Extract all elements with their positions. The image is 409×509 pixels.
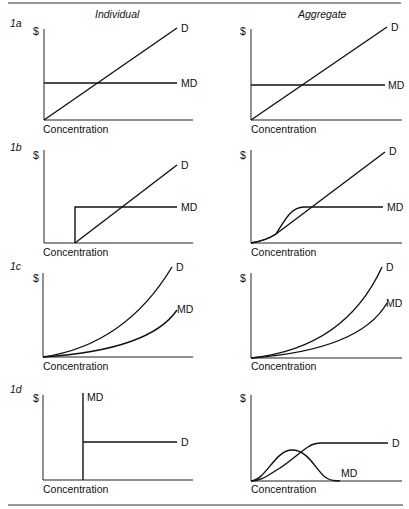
md-label: MD: [387, 201, 404, 213]
y-axis-label: $: [240, 149, 246, 161]
row-label-1b: 1b: [10, 141, 22, 153]
x-axis-label: Concentration: [43, 360, 109, 372]
d-curve: [43, 267, 172, 357]
md-curve: [251, 450, 340, 481]
header-aggregate: Aggregate: [297, 8, 347, 20]
x-axis-label: Concentration: [43, 123, 109, 135]
d-label: D: [391, 21, 399, 33]
panel-1b-individual: $ D MD Concentration: [33, 149, 198, 258]
y-axis-label: $: [33, 392, 39, 404]
md-label: MD: [388, 79, 405, 91]
md-label: MD: [87, 391, 104, 403]
row-label-1c: 1c: [10, 260, 22, 272]
d-curve: [251, 152, 385, 243]
md-curve: [43, 310, 177, 357]
md-curve: [251, 303, 387, 358]
axes: [43, 273, 193, 357]
panel-1c-individual: $ D MD Concentration: [33, 261, 194, 372]
y-axis-label: $: [33, 25, 39, 37]
axes: [44, 150, 193, 243]
md-label: MD: [341, 467, 358, 479]
y-axis-label: $: [240, 272, 246, 284]
row-label-1a: 1a: [10, 17, 22, 29]
x-axis-label: Concentration: [43, 483, 109, 495]
md-label: MD: [177, 303, 194, 315]
md-curve: [75, 207, 177, 243]
md-label: MD: [181, 201, 198, 213]
d-curve: [75, 165, 177, 243]
row-1b: 1b $ D MD Concentration $ D MD Concentra…: [10, 141, 404, 258]
x-axis-label: Concentration: [251, 246, 317, 258]
axes: [44, 29, 193, 120]
figure-1-diagrams: Individual Aggregate 1a $ D MD Concentra…: [0, 0, 409, 509]
axes: [251, 395, 402, 481]
panel-1d-aggregate: $ D MD Concentration: [240, 392, 402, 495]
y-axis-label: $: [240, 392, 246, 404]
axes: [43, 395, 193, 480]
d-curve: [251, 267, 382, 358]
x-axis-label: Concentration: [251, 123, 317, 135]
panel-1a-aggregate: $ D MD Concentration: [240, 21, 405, 135]
md-label: MD: [181, 77, 198, 89]
x-axis-label: Concentration: [251, 483, 317, 495]
md-label: MD: [386, 297, 403, 309]
d-label: D: [386, 261, 394, 273]
d-label: D: [181, 436, 189, 448]
row-1d: 1d $ MD D Concentration $ D MD Concentra…: [10, 383, 402, 495]
d-label: D: [392, 437, 400, 449]
row-1c: 1c $ D MD Concentration $ D MD Concentra…: [10, 260, 403, 372]
row-1a: 1a $ D MD Concentration $ D MD Concentra…: [10, 17, 405, 135]
panel-1c-aggregate: $ D MD Concentration: [240, 261, 403, 372]
panel-1a-individual: $ D MD Concentration: [33, 22, 198, 135]
md-curve: [251, 207, 383, 243]
y-axis-label: $: [33, 149, 39, 161]
panel-1d-individual: $ MD D Concentration: [33, 391, 193, 495]
d-label: D: [389, 145, 397, 157]
d-label: D: [176, 261, 184, 273]
d-curve: [251, 27, 387, 120]
x-axis-label: Concentration: [43, 246, 109, 258]
d-label: D: [181, 22, 189, 34]
y-axis-label: $: [240, 25, 246, 37]
d-curve: [251, 443, 388, 481]
d-label: D: [181, 159, 189, 171]
header-individual: Individual: [95, 8, 140, 20]
panel-1b-aggregate: $ D MD Concentration: [240, 145, 404, 258]
d-curve: [44, 28, 177, 120]
y-axis-label: $: [33, 272, 39, 284]
x-axis-label: Concentration: [251, 360, 317, 372]
row-label-1d: 1d: [10, 383, 23, 395]
axes: [251, 29, 402, 120]
